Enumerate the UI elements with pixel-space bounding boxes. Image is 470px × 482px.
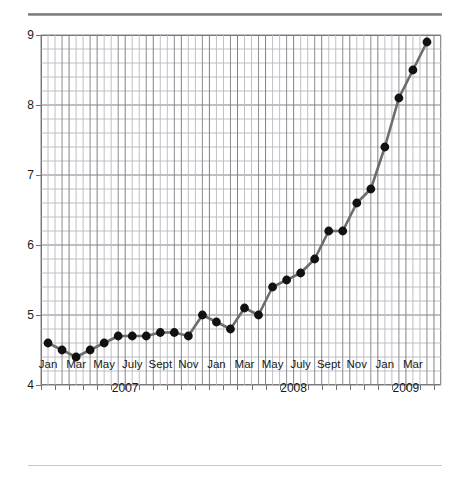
- data-point: [338, 227, 347, 236]
- x-axis-tick-mark: [336, 385, 337, 390]
- data-point: [142, 332, 151, 341]
- x-axis-tick-mark: [167, 385, 168, 390]
- x-axis-tick-label: Nov: [178, 358, 198, 370]
- data-point: [86, 346, 95, 355]
- x-axis-tick-label: Sept: [148, 358, 172, 370]
- y-axis-tick-mark: [36, 315, 41, 316]
- x-axis-tick-label: May: [93, 358, 115, 370]
- x-axis-tick-mark: [420, 385, 421, 390]
- x-axis-tick-mark: [195, 385, 196, 390]
- y-axis-tick-mark: [36, 175, 41, 176]
- x-axis-tick-mark: [364, 385, 365, 390]
- x-axis-tick-mark: [252, 385, 253, 390]
- data-point: [409, 66, 418, 75]
- data-point: [380, 143, 389, 152]
- x-axis-tick-label: Jan: [207, 358, 226, 370]
- data-point: [100, 339, 109, 348]
- x-axis-tick-label: Jan: [39, 358, 58, 370]
- y-axis-tick-mark: [36, 105, 41, 106]
- x-axis-tick-label: Nov: [347, 358, 367, 370]
- x-axis-tick-mark: [69, 385, 70, 390]
- x-axis-tick-label: Mar: [403, 358, 423, 370]
- y-axis-tick-label: 6: [8, 238, 34, 252]
- data-point: [352, 199, 361, 208]
- x-axis-tick-mark: [209, 385, 210, 390]
- data-point: [324, 227, 333, 236]
- line-series: [41, 35, 441, 385]
- x-axis-tick-mark: [322, 385, 323, 390]
- bottom-divider-rule: [28, 465, 442, 466]
- y-axis-tick-label: 9: [8, 28, 34, 42]
- x-axis-tick-mark: [153, 385, 154, 390]
- data-point: [254, 311, 263, 320]
- chart-page: 456789 JanMarMayJulySeptNovJanMarMayJuly…: [0, 0, 470, 482]
- data-point: [423, 38, 432, 47]
- data-point: [128, 332, 137, 341]
- data-point: [114, 332, 123, 341]
- x-axis-tick-mark: [41, 385, 42, 390]
- x-axis-tick-label: Jan: [376, 358, 395, 370]
- y-axis-tick-mark: [36, 35, 41, 36]
- x-axis-tick-mark: [237, 385, 238, 390]
- x-axis-tick-mark: [97, 385, 98, 390]
- x-axis-tick-label: July: [122, 358, 142, 370]
- x-axis-tick-mark: [308, 385, 309, 390]
- data-point: [212, 318, 221, 327]
- x-axis-tick-label: Sept: [317, 358, 341, 370]
- data-point: [184, 332, 193, 341]
- data-point: [198, 311, 207, 320]
- x-axis-tick-label: Mar: [235, 358, 255, 370]
- data-point: [44, 339, 53, 348]
- data-point: [58, 346, 67, 355]
- x-axis-tick-mark: [434, 385, 435, 390]
- x-axis-tick-mark: [55, 385, 56, 390]
- data-point: [282, 276, 291, 285]
- x-axis-tick-mark: [83, 385, 84, 390]
- y-axis-tick-label: 4: [8, 378, 34, 392]
- y-axis-tick-mark: [36, 245, 41, 246]
- data-point: [366, 185, 375, 194]
- x-axis-year-label: 2007: [112, 381, 139, 395]
- data-point: [240, 304, 249, 313]
- x-axis-tick-label: Mar: [66, 358, 86, 370]
- x-axis-tick-mark: [223, 385, 224, 390]
- y-axis-tick-label: 5: [8, 308, 34, 322]
- x-axis-tick-label: July: [290, 358, 310, 370]
- y-axis-tick-label: 7: [8, 168, 34, 182]
- data-point: [170, 328, 179, 337]
- x-axis-tick-mark: [181, 385, 182, 390]
- x-axis-tick-mark: [378, 385, 379, 390]
- x-axis-tick-mark: [350, 385, 351, 390]
- data-point: [394, 94, 403, 103]
- data-point: [296, 269, 305, 278]
- top-divider-rule: [28, 13, 442, 16]
- x-axis-tick-label: May: [262, 358, 284, 370]
- x-axis-year-label: 2008: [280, 381, 307, 395]
- plot-area: [41, 35, 441, 385]
- x-axis-year-label: 2009: [393, 381, 420, 395]
- y-axis-tick-label: 8: [8, 98, 34, 112]
- x-axis-tick-mark: [266, 385, 267, 390]
- data-point: [268, 283, 277, 292]
- data-point: [156, 328, 165, 337]
- data-point: [310, 255, 319, 264]
- x-axis-tick-mark: [139, 385, 140, 390]
- data-point: [226, 325, 235, 334]
